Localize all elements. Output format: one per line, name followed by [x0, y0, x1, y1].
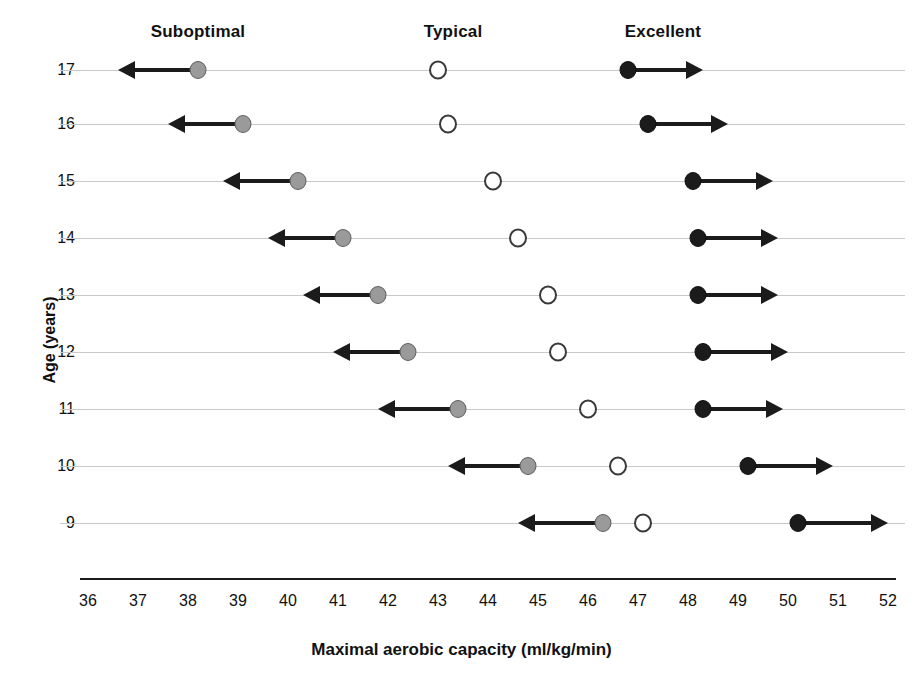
suboptimal-marker — [400, 343, 417, 361]
suboptimal-marker — [190, 61, 207, 79]
typical-marker — [509, 229, 527, 248]
excellent-marker — [695, 343, 712, 361]
suboptimal-marker — [520, 457, 537, 475]
excellent-marker — [740, 457, 757, 475]
x-tick-label: 41 — [329, 592, 347, 610]
x-tick-label: 51 — [829, 592, 847, 610]
excellent-arrow-shaft — [698, 293, 766, 297]
suboptimal-arrow-head — [448, 457, 465, 475]
excellent-arrow-head — [761, 286, 778, 304]
row-gridline — [60, 523, 905, 524]
typical-marker — [549, 343, 567, 362]
typical-marker — [634, 514, 652, 533]
excellent-marker — [685, 172, 702, 190]
zone-label-typical: Typical — [424, 22, 483, 42]
suboptimal-marker — [290, 172, 307, 190]
x-tick-label: 49 — [729, 592, 747, 610]
x-tick-label: 52 — [879, 592, 897, 610]
typical-marker — [429, 61, 447, 80]
excellent-marker — [690, 286, 707, 304]
x-tick-label: 37 — [129, 592, 147, 610]
excellent-marker — [790, 514, 807, 532]
suboptimal-arrow-head — [303, 286, 320, 304]
row-gridline — [60, 238, 905, 239]
excellent-arrow-head — [761, 229, 778, 247]
typical-marker — [609, 457, 627, 476]
excellent-marker — [640, 115, 657, 133]
suboptimal-arrow-head — [333, 343, 350, 361]
x-axis-title: Maximal aerobic capacity (ml/kg/min) — [0, 640, 923, 660]
zone-label-suboptimal: Suboptimal — [151, 22, 246, 42]
suboptimal-marker — [335, 229, 352, 247]
x-tick-label: 46 — [579, 592, 597, 610]
excellent-arrow-shaft — [693, 179, 761, 183]
excellent-arrow-shaft — [703, 407, 771, 411]
excellent-arrow-head — [871, 514, 888, 532]
excellent-arrow-shaft — [798, 521, 876, 525]
excellent-arrow-shaft — [698, 236, 766, 240]
excellent-arrow-head — [816, 457, 833, 475]
suboptimal-arrow-head — [268, 229, 285, 247]
suboptimal-arrow-shaft — [530, 521, 603, 525]
suboptimal-arrow-head — [223, 172, 240, 190]
suboptimal-marker — [595, 514, 612, 532]
excellent-arrow-head — [686, 61, 703, 79]
suboptimal-marker — [235, 115, 252, 133]
row-gridline — [60, 181, 905, 182]
suboptimal-arrow-head — [378, 400, 395, 418]
x-tick-label: 40 — [279, 592, 297, 610]
x-tick-label: 39 — [229, 592, 247, 610]
excellent-marker — [695, 400, 712, 418]
suboptimal-marker — [450, 400, 467, 418]
excellent-arrow-head — [771, 343, 788, 361]
excellent-arrow-head — [711, 115, 728, 133]
suboptimal-arrow-shaft — [130, 68, 198, 72]
excellent-arrow-shaft — [703, 350, 776, 354]
x-axis-line — [80, 578, 896, 580]
x-tick-label: 44 — [479, 592, 497, 610]
excellent-arrow-shaft — [748, 464, 821, 468]
x-tick-label: 48 — [679, 592, 697, 610]
excellent-marker — [690, 229, 707, 247]
x-tick-label: 47 — [629, 592, 647, 610]
excellent-arrow-shaft — [648, 122, 716, 126]
typical-marker — [539, 286, 557, 305]
x-tick-label: 45 — [529, 592, 547, 610]
x-tick-label: 38 — [179, 592, 197, 610]
suboptimal-arrow-head — [168, 115, 185, 133]
excellent-arrow-shaft — [628, 68, 691, 72]
suboptimal-arrow-shaft — [460, 464, 528, 468]
suboptimal-arrow-shaft — [390, 407, 458, 411]
x-tick-label: 50 — [779, 592, 797, 610]
typical-marker — [579, 400, 597, 419]
row-gridline — [60, 295, 905, 296]
suboptimal-arrow-head — [518, 514, 535, 532]
zone-label-excellent: Excellent — [625, 22, 701, 42]
aerobic-capacity-chart: Age (years) SuboptimalTypicalExcellent 1… — [0, 0, 923, 679]
suboptimal-arrow-head — [118, 61, 135, 79]
suboptimal-marker — [370, 286, 387, 304]
y-axis-title: Age (years) — [41, 296, 59, 383]
x-tick-label: 43 — [429, 592, 447, 610]
typical-marker — [484, 172, 502, 191]
x-tick-label: 36 — [79, 592, 97, 610]
typical-marker — [439, 115, 457, 134]
excellent-arrow-head — [756, 172, 773, 190]
excellent-marker — [620, 61, 637, 79]
x-tick-label: 42 — [379, 592, 397, 610]
excellent-arrow-head — [766, 400, 783, 418]
